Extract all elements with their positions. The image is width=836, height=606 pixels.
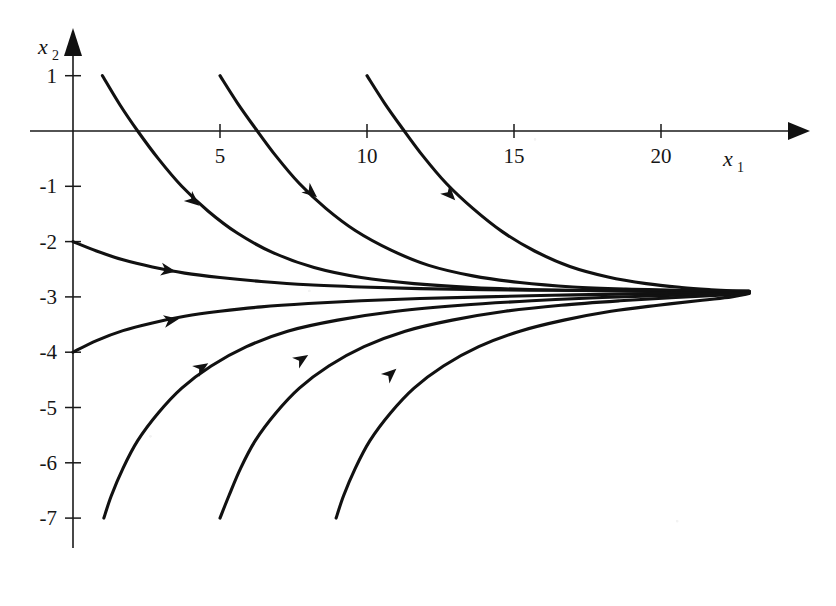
y-tick-label: -4 (40, 340, 58, 364)
x-axis-arrowhead (788, 122, 810, 140)
trajectory-curve (336, 294, 749, 519)
y-axis-label-subscript: 2 (52, 48, 59, 63)
trajectory-direction-arrow (301, 183, 321, 202)
y-tick-label: 1 (47, 64, 58, 88)
x-tick-label: 20 (651, 144, 672, 168)
y-tick-label: -5 (40, 396, 58, 420)
y-tick-label-group: 1-1-2-3-4-5-6-7 (40, 64, 58, 530)
y-axis-label: x 2 (37, 34, 59, 63)
y-tick-label: -2 (40, 230, 58, 254)
x-tick-label: 15 (504, 144, 525, 168)
trajectory-curves-group (73, 76, 749, 518)
x-tick-label: 5 (215, 144, 226, 168)
x-tick-label: 10 (357, 144, 378, 168)
y-tick-label: -6 (40, 451, 58, 475)
y-tick-label: -7 (40, 506, 58, 530)
y-tick-label: -1 (40, 174, 58, 198)
trajectory-curve (102, 76, 749, 292)
y-axis-arrowhead (64, 28, 82, 56)
y-tick-label: -3 (40, 285, 58, 309)
trajectory-direction-arrow (292, 350, 312, 369)
trajectory-curve (220, 76, 749, 292)
x-axis-label-text: x (722, 146, 733, 171)
x-axis-label-subscript: 1 (737, 160, 744, 175)
x-axis-label: x 1 (722, 146, 744, 175)
trajectory-direction-arrow (381, 364, 401, 384)
trajectory-direction-arrow (184, 191, 204, 210)
trajectory-curve (367, 76, 749, 292)
phase-portrait-svg: 5101520 1-1-2-3-4-5-6-7 x 1 x 2 (0, 0, 836, 606)
trajectory-curve (73, 292, 749, 352)
phase-portrait-figure: 5101520 1-1-2-3-4-5-6-7 x 1 x 2 (0, 0, 836, 606)
y-axis-label-text: x (37, 34, 48, 59)
